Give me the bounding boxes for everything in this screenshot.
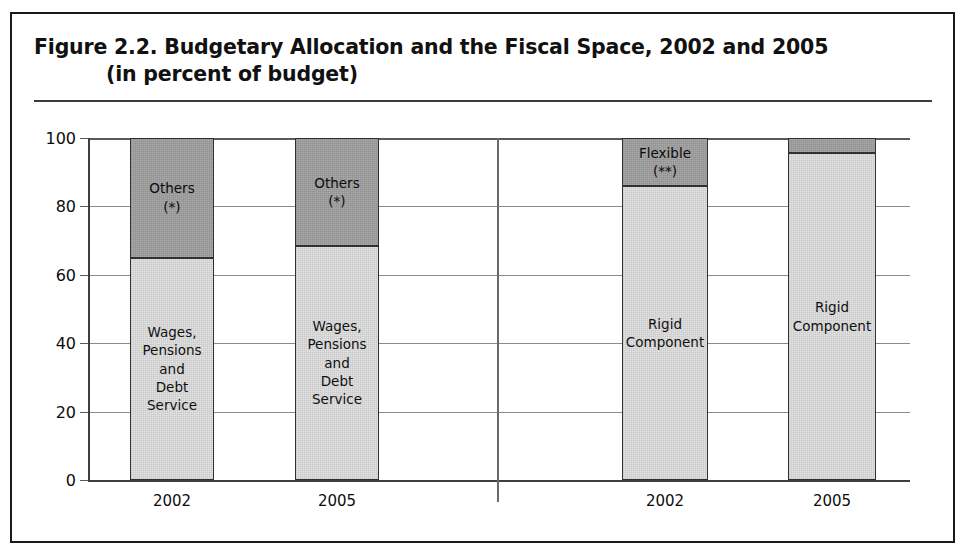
figure-frame: Figure 2.2. Budgetary Allocation and the… [10,12,955,543]
bar-segment[interactable]: Wages, Pensions and Debt Service [295,246,379,480]
x-tick-label-budgetary-allocation-2005: 2005 [265,492,409,510]
bar-segment[interactable]: Rigid Component [788,153,876,480]
bar-segment-label: Wages, Pensions and Debt Service [296,317,378,409]
bar-segment[interactable]: Flexible (**) [622,138,708,186]
bar-segment-label: Others (*) [313,174,360,211]
y-tick-label-0: 0 [18,471,76,490]
x-axis-line [88,480,910,482]
x-tick-label-fiscal-space-2005: 2005 [758,492,906,510]
bar-segment[interactable]: Wages, Pensions and Debt Service [130,258,214,480]
stacked-bar[interactable]: Rigid ComponentFlexible (**) [622,138,708,480]
chart-plot-area: 020406080100 Wages, Pensions and Debt Se… [12,14,957,545]
y-tick-label-100: 100 [18,129,76,148]
stacked-bar[interactable]: Rigid Component [788,138,876,480]
bar-segment-label: Rigid Component [792,298,872,335]
group-divider-line [497,138,499,502]
bar-segment-label: Others (*) [148,179,195,216]
bar-segment[interactable]: Others (*) [130,138,214,258]
bar-segment-label: Flexible (**) [638,144,692,181]
bar-segment[interactable]: Rigid Component [622,186,708,480]
x-tick-label-budgetary-allocation-2002: 2002 [100,492,244,510]
stacked-bar[interactable]: Wages, Pensions and Debt ServiceOthers (… [130,138,214,480]
bar-segment-label: Rigid Component [625,315,705,352]
y-axis-tick-labels: 020406080100 [12,14,76,545]
bar-segment-label: Wages, Pensions and Debt Service [131,323,213,415]
y-tick-label-60: 60 [18,265,76,284]
bar-segment[interactable]: Others (*) [295,138,379,246]
y-tick-label-40: 40 [18,334,76,353]
y-tick-label-20: 20 [18,402,76,421]
y-tick-label-80: 80 [18,197,76,216]
x-tick-label-fiscal-space-2002: 2002 [592,492,738,510]
stacked-bar[interactable]: Wages, Pensions and Debt ServiceOthers (… [295,138,379,480]
y-axis-line [88,138,90,481]
bar-segment[interactable] [788,138,876,153]
